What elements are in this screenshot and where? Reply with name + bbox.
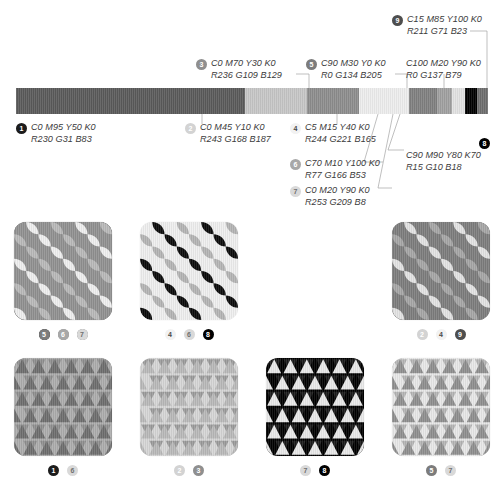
callout-2-rgb: R243 G168 B187 xyxy=(200,134,271,146)
badge-3: 3 xyxy=(193,465,204,476)
color-bar xyxy=(16,88,488,114)
badge-7: 7 xyxy=(290,186,301,197)
badge-4: 4 xyxy=(290,123,301,134)
callout-10-rgb: R15 G10 B18 xyxy=(406,162,481,174)
callout-10: C90 M90 Y80 K70 R15 G10 B18 xyxy=(406,150,481,173)
color-segment-2[interactable] xyxy=(245,88,307,114)
callout-8: C100 M20 Y90 K0 R0 G137 B79 xyxy=(406,58,481,81)
callout-1-cmyk: C0 M95 Y50 K0 xyxy=(31,122,96,134)
badge-4: 4 xyxy=(436,329,447,340)
swatch-color-badges: 57 xyxy=(378,465,504,476)
callout-7-cmyk: C0 M20 Y90 K0 xyxy=(305,185,370,197)
swatch-cell-3: 567 xyxy=(0,222,126,340)
callout-5-rgb: R0 G134 B205 xyxy=(321,70,386,82)
swatch-cell-8: 57 xyxy=(378,358,504,476)
badge-6: 6 xyxy=(290,159,301,170)
pattern-swatch[interactable] xyxy=(392,358,490,456)
callout-3: 3 C0 M70 Y30 K0 R236 G109 B129 xyxy=(196,58,282,81)
badge-8: 8 xyxy=(319,465,330,476)
pattern-swatch[interactable] xyxy=(140,358,238,456)
badge-2: 2 xyxy=(185,123,196,134)
color-segment-7[interactable] xyxy=(452,88,465,114)
pattern-swatch[interactable] xyxy=(14,358,112,456)
leader-7 xyxy=(378,114,393,188)
swatch-color-badges: 16 xyxy=(0,465,126,476)
swatch-cell-7: 78 xyxy=(252,358,378,476)
badge-6: 6 xyxy=(58,329,69,340)
color-segment-4[interactable] xyxy=(359,88,409,114)
pattern-swatch[interactable] xyxy=(392,222,490,320)
swatch-cell-6: 23 xyxy=(126,358,252,476)
callout-3-rgb: R236 G109 B129 xyxy=(211,70,282,82)
pattern-swatch[interactable] xyxy=(140,222,238,320)
color-segment-1[interactable] xyxy=(16,88,245,114)
color-segment-3[interactable] xyxy=(307,88,359,114)
callout-9-cmyk: C15 M85 Y100 K0 xyxy=(407,14,482,26)
callout-2-cmyk: C0 M45 Y10 K0 xyxy=(200,122,271,134)
pattern-swatch[interactable] xyxy=(14,222,112,320)
callout-6-rgb: R77 G166 B53 xyxy=(305,170,380,182)
badge-6: 6 xyxy=(67,465,78,476)
callout-4-cmyk: C5 M15 Y40 K0 xyxy=(305,122,376,134)
palette-specification-page: 9 C15 M85 Y100 K0 R211 G71 B23 3 C0 M70 … xyxy=(0,0,504,496)
callout-1-rgb: R230 G31 B83 xyxy=(31,134,96,146)
color-segment-5[interactable] xyxy=(409,88,437,114)
badge-1: 1 xyxy=(16,123,27,134)
color-segment-8[interactable] xyxy=(465,88,476,114)
pattern-swatch[interactable] xyxy=(266,358,364,456)
callout-5-cmyk: C90 M30 Y0 K0 xyxy=(321,58,386,70)
swatch-color-badges: 567 xyxy=(0,329,126,340)
badge-7: 7 xyxy=(300,465,311,476)
badge-5: 5 xyxy=(39,329,50,340)
swatch-color-badges: 468 xyxy=(126,329,252,340)
swatch-cell-2: 468 xyxy=(126,222,252,340)
color-segment-6[interactable] xyxy=(437,88,452,114)
callout-10-cmyk: C90 M90 Y80 K70 xyxy=(406,150,481,162)
badge-7: 7 xyxy=(445,465,456,476)
swatch-cell-4: 249 xyxy=(378,222,504,340)
callout-8-cmyk: C100 M20 Y90 K0 xyxy=(406,58,481,70)
callout-6: 6 C70 M10 Y100 K0 R77 G166 B53 xyxy=(290,158,380,181)
badge-9: 9 xyxy=(392,15,403,26)
leader-10 xyxy=(388,114,404,150)
badge-5: 5 xyxy=(306,59,317,70)
badge-4: 4 xyxy=(165,329,176,340)
badge-2: 2 xyxy=(174,465,185,476)
badge-1: 1 xyxy=(48,465,59,476)
callout-4-rgb: R244 G221 B165 xyxy=(305,134,376,146)
callout-1: 1 C0 M95 Y50 K0 R230 G31 B83 xyxy=(16,122,96,145)
callout-7-rgb: R253 G209 B8 xyxy=(305,197,370,209)
callout-5: 5 C90 M30 Y0 K0 R0 G134 B205 xyxy=(306,58,386,81)
callout-3-cmyk: C0 M70 Y30 K0 xyxy=(211,58,282,70)
badge-9: 9 xyxy=(455,329,466,340)
callout-4: 4 C5 M15 Y40 K0 R244 G221 B165 xyxy=(290,122,376,145)
swatch-cell-5: 16 xyxy=(0,358,126,476)
badge-8-marker: 8 xyxy=(479,138,490,149)
color-segment-9[interactable] xyxy=(477,88,488,114)
callout-9-rgb: R211 G71 B23 xyxy=(407,26,482,38)
badge-5: 5 xyxy=(426,465,437,476)
callout-2: 2 C0 M45 Y10 K0 R243 G168 B187 xyxy=(185,122,271,145)
swatch-color-badges: 23 xyxy=(126,465,252,476)
badge-7: 7 xyxy=(77,329,88,340)
swatch-color-badges: 78 xyxy=(252,465,378,476)
callout-9: 9 C15 M85 Y100 K0 R211 G71 B23 xyxy=(392,14,482,37)
callout-6-cmyk: C70 M10 Y100 K0 xyxy=(305,158,380,170)
badge-6: 6 xyxy=(184,329,195,340)
callout-7: 7 C0 M20 Y90 K0 R253 G209 B8 xyxy=(290,185,370,208)
badge-2: 2 xyxy=(417,329,428,340)
pattern-swatch-grid: 135 468 567 249 16 23 78 57 xyxy=(0,222,504,496)
swatch-color-badges: 249 xyxy=(378,329,504,340)
badge-8: 8 xyxy=(203,329,214,340)
badge-3: 3 xyxy=(196,59,207,70)
callout-8-rgb: R0 G137 B79 xyxy=(406,70,481,82)
